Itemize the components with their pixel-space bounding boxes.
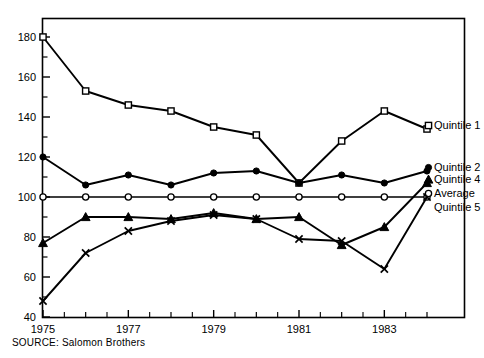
y-tick-label: 160 bbox=[18, 71, 36, 83]
y-tick-label: 180 bbox=[18, 31, 36, 43]
data-point-marker bbox=[83, 88, 89, 94]
data-point-marker bbox=[339, 194, 345, 200]
plot-frame bbox=[43, 19, 465, 318]
data-point-marker bbox=[211, 194, 217, 200]
legend-label: Quintile 5 bbox=[434, 201, 480, 213]
data-point-marker bbox=[83, 182, 89, 188]
y-tick-label: 120 bbox=[18, 151, 36, 163]
data-point-marker bbox=[40, 194, 46, 200]
data-point-marker bbox=[296, 180, 302, 186]
data-point-marker bbox=[253, 168, 259, 174]
data-point-marker bbox=[253, 194, 259, 200]
legend-label: Quintile 1 bbox=[434, 119, 480, 131]
x-axis-tick-labels: 19751977197919811983 bbox=[31, 323, 397, 335]
y-tick-label: 140 bbox=[18, 111, 36, 123]
legend-label: Quintile 4 bbox=[434, 173, 480, 185]
data-point-marker bbox=[296, 194, 302, 200]
data-point-marker bbox=[339, 172, 345, 178]
plot-area-border bbox=[43, 19, 465, 318]
data-point-marker bbox=[168, 194, 174, 200]
data-point-marker bbox=[339, 138, 345, 144]
data-point-marker bbox=[211, 170, 217, 176]
legend-label: Quintile 2 bbox=[434, 161, 480, 173]
data-point-marker bbox=[168, 108, 174, 114]
legend-label: Average bbox=[434, 187, 475, 199]
source-note: SOURCE: Salomon Brothers bbox=[12, 337, 145, 348]
data-point-marker bbox=[381, 108, 387, 114]
data-point-marker bbox=[125, 102, 131, 108]
data-point-marker bbox=[211, 124, 217, 130]
data-point-marker bbox=[381, 194, 387, 200]
data-point-marker bbox=[381, 180, 387, 186]
x-tick-label: 1975 bbox=[31, 323, 55, 335]
legend-marker bbox=[425, 164, 431, 170]
legend-marker bbox=[425, 122, 431, 128]
data-point-marker bbox=[125, 194, 131, 200]
y-tick-label: 40 bbox=[24, 311, 36, 323]
chart-figure: 406080100120140160180 197519771979198119… bbox=[0, 0, 484, 358]
y-tick-label: 100 bbox=[18, 191, 36, 203]
data-point-marker bbox=[253, 132, 259, 138]
y-tick-label: 80 bbox=[24, 231, 36, 243]
x-tick-label: 1979 bbox=[201, 323, 225, 335]
data-point-marker bbox=[168, 182, 174, 188]
x-tick-label: 1983 bbox=[372, 323, 396, 335]
legend-marker bbox=[425, 190, 431, 196]
x-tick-label: 1981 bbox=[287, 323, 311, 335]
data-point-marker bbox=[40, 154, 46, 160]
x-tick-label: 1977 bbox=[116, 323, 140, 335]
line-chart: 406080100120140160180 197519771979198119… bbox=[0, 0, 484, 358]
data-point-marker bbox=[125, 172, 131, 178]
y-axis-tick-labels: 406080100120140160180 bbox=[18, 31, 36, 323]
data-point-marker bbox=[83, 194, 89, 200]
y-tick-label: 60 bbox=[24, 271, 36, 283]
data-point-marker bbox=[40, 34, 46, 40]
